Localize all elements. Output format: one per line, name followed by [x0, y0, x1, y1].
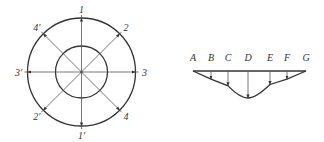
point-label: B: [208, 52, 214, 63]
spoke-ext-3: [120, 110, 122, 112]
load-figure: ABCDEFG: [189, 52, 310, 98]
direction-label: 2′: [33, 111, 41, 122]
spoke-arrow-7: [43, 34, 81, 72]
spoke-ext-5: [41, 110, 43, 112]
direction-label: 3: [141, 67, 147, 78]
point-label: E: [266, 52, 273, 63]
spoke-ext-7: [41, 32, 43, 34]
circle-figure: 12341′2′3′4′: [14, 4, 147, 141]
direction-label: 2: [124, 22, 129, 33]
point-label: A: [189, 52, 197, 63]
point-label: C: [225, 52, 232, 63]
point-label: F: [283, 52, 291, 63]
direction-label: 1: [79, 4, 84, 15]
spoke-arrow-1: [82, 34, 120, 72]
point-label: D: [243, 52, 252, 63]
load-curve: [193, 71, 306, 98]
point-label: G: [302, 52, 309, 63]
direction-label: 4′: [33, 22, 41, 33]
spoke-arrow-5: [43, 72, 81, 110]
spoke-ext-1: [120, 32, 122, 34]
center-dot: [81, 71, 83, 73]
direction-label: 3′: [14, 67, 23, 78]
direction-label: 4: [124, 111, 129, 122]
spoke-arrow-3: [82, 72, 120, 110]
diagram-canvas: 12341′2′3′4′ ABCDEFG: [0, 0, 324, 142]
direction-label: 1′: [78, 130, 86, 141]
